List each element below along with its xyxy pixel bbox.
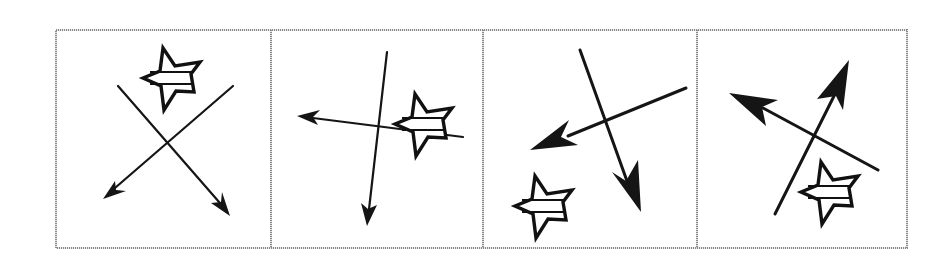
panel-1 (103, 48, 233, 216)
panel-3 (515, 50, 686, 238)
panel-4 (729, 60, 878, 224)
star-with-band-icon (801, 162, 858, 224)
star-with-band-icon (515, 176, 572, 238)
panel-frames (56, 30, 907, 248)
arrow-down-right-icon (118, 86, 230, 216)
star-with-band-icon (143, 48, 200, 110)
arrow-down-left-icon (530, 88, 686, 150)
panel-2 (297, 52, 463, 226)
arrow-down-icon (580, 50, 641, 212)
arrow-down-icon (361, 52, 387, 226)
star-with-band-icon (395, 94, 452, 156)
figure-canvas (0, 0, 947, 259)
